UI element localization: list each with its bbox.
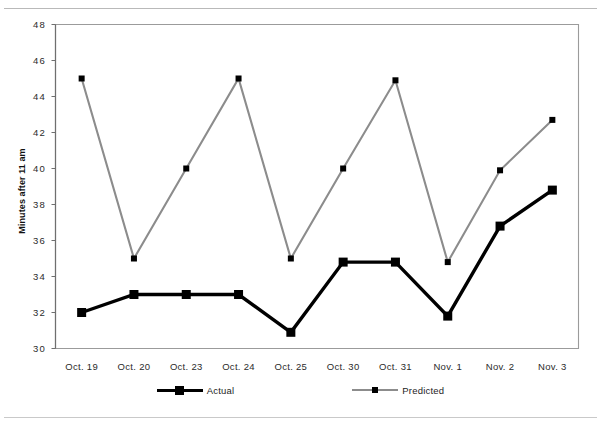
legend-entry-actual: Actual — [157, 384, 235, 396]
data-point-marker — [234, 290, 243, 299]
data-point-marker — [496, 222, 505, 231]
data-point-marker — [79, 76, 85, 82]
data-point-marker — [182, 290, 191, 299]
data-point-marker — [286, 328, 295, 337]
data-point-marker — [548, 186, 557, 195]
legend-label: Predicted — [402, 385, 444, 396]
data-point-marker — [288, 256, 294, 262]
data-point-marker — [339, 258, 348, 267]
data-point-marker — [443, 312, 452, 321]
actual-line-swatch — [157, 384, 203, 396]
data-point-marker — [391, 258, 400, 267]
legend-label: Actual — [207, 385, 235, 396]
plot-area — [0, 0, 601, 424]
predicted-line-swatch — [352, 384, 398, 396]
data-point-marker — [549, 117, 555, 123]
legend-marker — [175, 386, 184, 395]
chart-container: Minutes after 11 am 48464442403836343230… — [0, 0, 601, 424]
data-point-marker — [129, 290, 138, 299]
data-point-marker — [236, 76, 242, 82]
data-point-marker — [77, 308, 86, 317]
data-point-marker — [183, 166, 189, 172]
data-point-marker — [131, 256, 137, 262]
data-point-marker — [497, 167, 503, 173]
chart-legend: ActualPredicted — [0, 384, 601, 396]
legend-marker — [372, 387, 378, 393]
series-line-predicted — [82, 79, 553, 263]
data-point-marker — [340, 166, 346, 172]
data-point-marker — [392, 77, 398, 83]
data-point-marker — [445, 259, 451, 265]
legend-entry-predicted: Predicted — [352, 384, 444, 396]
